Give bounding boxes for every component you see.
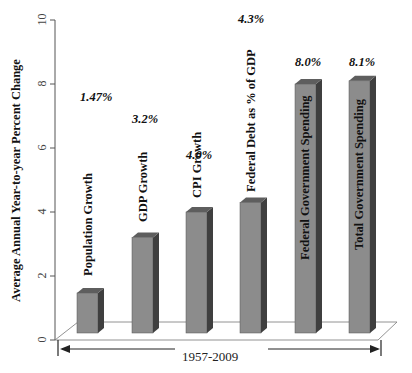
bar-category-label: Federal Debt as % of GDP: [244, 49, 259, 192]
bar-value-label: 4.0%: [186, 148, 212, 163]
bar-front: [186, 212, 207, 333]
bar-side: [316, 79, 322, 333]
y-axis-title: Average Annual Year-to-year Percent Chan…: [2, 20, 30, 340]
bar-front: [77, 293, 98, 333]
bar-chart: Average Annual Year-to-year Percent Chan…: [0, 0, 412, 373]
bar-category-label: Population Growth: [81, 173, 96, 276]
bar-side: [261, 197, 267, 333]
y-tick-label: 8: [34, 76, 50, 91]
bar-front: [132, 238, 153, 333]
arrow-left-icon: [60, 345, 70, 353]
bar-category-label: Federal Government Spending: [298, 95, 313, 260]
bar-side: [153, 233, 159, 333]
bar-value-label: 8.0%: [295, 55, 321, 70]
chart-floor: [55, 322, 397, 340]
x-range-label: 1957-2009: [182, 349, 238, 365]
bar-category-label: GDP Growth: [136, 152, 151, 222]
bar-value-label: 3.2%: [132, 112, 158, 127]
bar-value-label: 4.3%: [238, 12, 264, 27]
bar-category-label: Total Government Spending: [352, 99, 367, 250]
bar-side: [98, 288, 104, 333]
bar-front: [240, 202, 261, 333]
y-tick-label: 2: [34, 268, 50, 283]
bar-side: [207, 207, 213, 333]
bar-side: [370, 76, 376, 333]
y-tick-label: 0: [34, 332, 50, 347]
bar-category-label: CPI Growth: [190, 132, 205, 198]
y-tick-label: 6: [34, 140, 50, 155]
arrow-right-icon: [370, 345, 380, 353]
y-tick-label: 4: [34, 204, 50, 219]
bar-value-label: 8.1%: [349, 55, 375, 70]
bar-value-label: 1.47%: [80, 90, 112, 105]
y-tick-label: 10: [34, 12, 50, 27]
